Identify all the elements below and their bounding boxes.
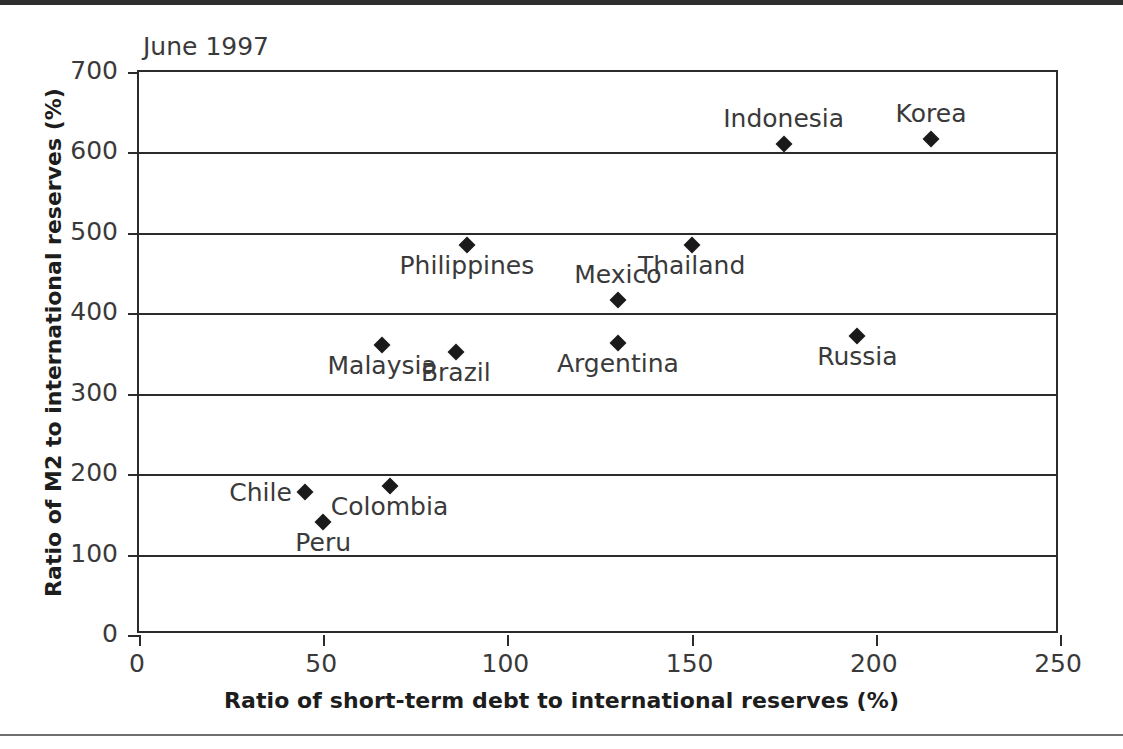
data-point-label: Chile bbox=[229, 477, 292, 506]
data-point-label: Peru bbox=[295, 528, 351, 557]
y-tick-label-700: 700 bbox=[48, 56, 118, 85]
gridline-y-300 bbox=[139, 394, 1056, 396]
y-tick-label-200: 200 bbox=[48, 458, 118, 487]
x-tick-label-150: 150 bbox=[645, 649, 735, 678]
gridline-y-600 bbox=[139, 152, 1056, 154]
data-point-label: Argentina bbox=[557, 349, 679, 378]
figure-container: June 1997 Ratio of M2 to international r… bbox=[0, 0, 1123, 749]
data-point-label: Indonesia bbox=[723, 104, 844, 133]
x-tick-250 bbox=[1060, 635, 1062, 646]
x-tick-label-100: 100 bbox=[460, 649, 550, 678]
y-tick-label-400: 400 bbox=[48, 297, 118, 326]
x-tick-100 bbox=[507, 635, 509, 646]
y-tick-400 bbox=[128, 313, 139, 315]
bottom-divider-rule bbox=[0, 734, 1123, 736]
x-tick-50 bbox=[323, 635, 325, 646]
y-tick-0 bbox=[128, 635, 139, 637]
data-point-label: Brazil bbox=[421, 358, 491, 387]
data-point-label: Korea bbox=[896, 99, 967, 128]
chart-title: June 1997 bbox=[143, 32, 269, 61]
gridline-y-200 bbox=[139, 474, 1056, 476]
top-divider-rule bbox=[0, 0, 1123, 5]
x-tick-label-200: 200 bbox=[829, 649, 919, 678]
y-tick-label-100: 100 bbox=[48, 538, 118, 567]
x-tick-label-0: 0 bbox=[92, 649, 182, 678]
y-tick-500 bbox=[128, 233, 139, 235]
y-tick-200 bbox=[128, 474, 139, 476]
gridline-y-100 bbox=[139, 555, 1056, 557]
data-point-marker bbox=[296, 483, 313, 500]
y-tick-100 bbox=[128, 555, 139, 557]
x-tick-label-50: 50 bbox=[276, 649, 366, 678]
x-tick-label-250: 250 bbox=[1013, 649, 1103, 678]
gridline-y-400 bbox=[139, 313, 1056, 315]
y-tick-label-600: 600 bbox=[48, 136, 118, 165]
y-tick-600 bbox=[128, 152, 139, 154]
gridline-y-500 bbox=[139, 233, 1056, 235]
y-tick-label-300: 300 bbox=[48, 377, 118, 406]
x-tick-0 bbox=[139, 635, 141, 646]
y-tick-300 bbox=[128, 394, 139, 396]
data-point-marker bbox=[923, 130, 940, 147]
data-point-label: Colombia bbox=[331, 492, 448, 521]
y-tick-label-500: 500 bbox=[48, 216, 118, 245]
data-point-label: Russia bbox=[817, 342, 897, 371]
x-tick-150 bbox=[692, 635, 694, 646]
plot-area: ChilePeruColombiaMalaysiaBrazilPhilippin… bbox=[137, 70, 1058, 633]
data-point-marker bbox=[609, 291, 626, 308]
data-point-label: Thailand bbox=[638, 251, 745, 280]
x-tick-200 bbox=[876, 635, 878, 646]
y-tick-label-0: 0 bbox=[48, 619, 118, 648]
data-point-label: Philippines bbox=[400, 251, 535, 280]
data-point-marker bbox=[775, 136, 792, 153]
y-tick-700 bbox=[128, 72, 139, 74]
x-axis-title: Ratio of short-term debt to internationa… bbox=[0, 688, 1123, 713]
